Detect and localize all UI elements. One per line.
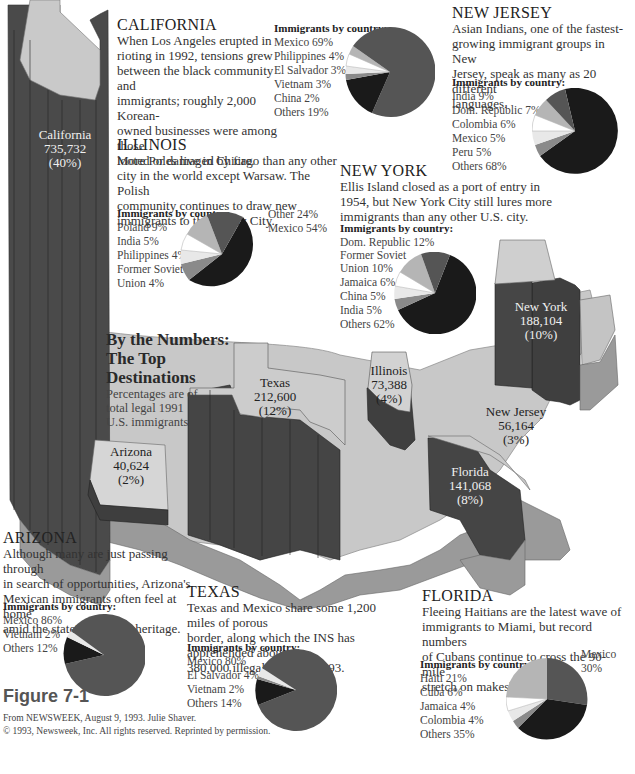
state-label-illinois: Illinois 73,388 (4%) [366,364,412,406]
by-the-numbers-block: By the Numbers: The Top Destinations Per… [106,330,236,429]
state-label-new-york: New York 188,104 (10%) [505,300,577,342]
state-label-california: California 735,732 (40%) [30,128,100,170]
arizona-pie-chart [63,614,145,696]
numbers-subtitle: Percentages are of total legal 1991 U.S.… [106,387,236,429]
florida-pie-chart [506,657,588,741]
state-label-texas: Texas 212,600 (12%) [240,376,310,418]
illinois-pie-chart [180,212,264,296]
section-new-york: NEW YORK Ellis Island closed as a port o… [340,162,560,224]
state-label-new-jersey: New Jersey 56,164 (3%) [480,405,552,447]
new-york-pie-chart [394,252,476,334]
figure-label: Figure 7-1 [3,686,89,707]
figure-credit: From NEWSWEEK, August 9, 1993. Julie Sha… [3,712,270,738]
state-label-arizona: Arizona 40,624 (2%) [100,445,162,487]
numbers-title: By the Numbers: The Top Destinations [106,330,236,387]
california-pie-chart [345,22,435,122]
state-label-florida: Florida 141,068 (8%) [440,465,500,507]
illinois-legend-right: Other 24% Mexico 54% [268,207,327,235]
